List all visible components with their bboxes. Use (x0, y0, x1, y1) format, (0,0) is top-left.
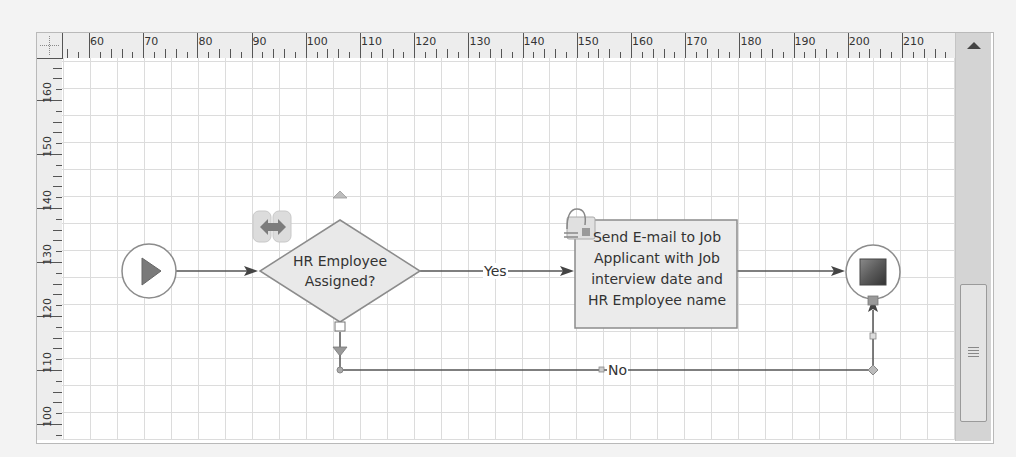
task-label-line2: Applicant with Job (572, 248, 742, 269)
decision-label-line2: Assigned? (260, 271, 420, 291)
yes-connector-label[interactable]: Yes (483, 263, 508, 279)
stop-square-icon (860, 259, 886, 285)
task-label: Send E-mail to Job Applicant with Job in… (572, 227, 742, 311)
ruler-label: 160 (632, 35, 653, 48)
ruler-label: 90 (253, 35, 267, 48)
end-event[interactable] (846, 245, 900, 305)
vertical-ruler: 160150140130120110100 (37, 58, 63, 440)
ruler-label: 140 (41, 188, 54, 214)
task-label-line4: HR Employee name (572, 290, 742, 311)
diagram-canvas[interactable]: HR Employee Assigned? Send E-mail to Job… (62, 58, 955, 440)
ruler-label: 160 (41, 80, 54, 106)
ruler-label: 170 (686, 35, 707, 48)
ruler-label: 190 (795, 35, 816, 48)
vertical-scrollbar[interactable] (955, 33, 991, 441)
ruler-label: 140 (524, 35, 545, 48)
scroll-up-button[interactable] (956, 33, 991, 57)
ruler-label: 80 (198, 35, 212, 48)
ruler-label: 110 (41, 350, 54, 376)
ruler-label: 130 (469, 35, 490, 48)
connector-start-to-decision[interactable] (176, 266, 258, 276)
ruler-label: 180 (740, 35, 761, 48)
ruler-label: 150 (41, 134, 54, 160)
ruler-label: 60 (90, 35, 104, 48)
data-exchange-icon (253, 211, 291, 242)
arrow-up-icon (967, 42, 981, 49)
ruler-label: 200 (849, 35, 870, 48)
no-connector-label[interactable]: No (607, 362, 628, 378)
ruler-origin-corner[interactable] (37, 33, 63, 59)
decision-label: HR Employee Assigned? (260, 251, 420, 291)
flowchart (62, 58, 955, 440)
start-event[interactable] (122, 244, 176, 298)
ruler-label: 150 (578, 35, 599, 48)
task-label-line1: Send E-mail to Job (572, 227, 742, 248)
ruler-label: 110 (361, 35, 382, 48)
connector-task-to-end[interactable] (737, 266, 845, 276)
task-label-line3: interview date and (572, 269, 742, 290)
collapse-up-icon (333, 191, 347, 198)
ruler-label: 210 (903, 35, 924, 48)
ruler-label: 100 (41, 404, 54, 430)
grip-icon (968, 347, 979, 359)
ruler-label: 120 (415, 35, 436, 48)
ruler-label: 120 (41, 296, 54, 322)
horizontal-ruler: 6070809010011012013014015016017018019020… (37, 33, 955, 59)
scrollbar-thumb[interactable] (960, 284, 987, 422)
ruler-label: 100 (307, 35, 328, 48)
ruler-label: 130 (41, 242, 54, 268)
decision-label-line1: HR Employee (260, 251, 420, 271)
ruler-label: 70 (144, 35, 158, 48)
